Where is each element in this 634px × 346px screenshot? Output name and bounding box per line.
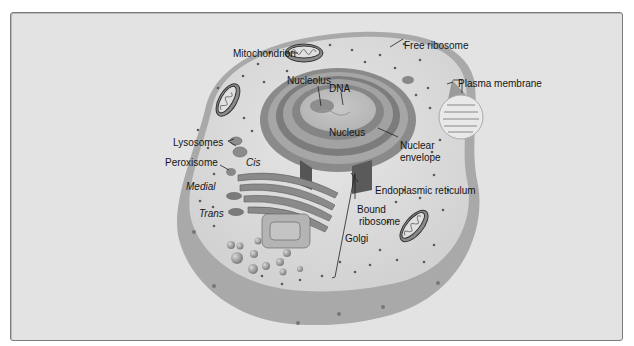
label-free-ribosome: Free ribosome xyxy=(404,40,468,51)
label-medial: Medial xyxy=(186,181,215,192)
label-peroxisome: Peroxisome xyxy=(165,157,218,168)
label-lysosomes: Lysosomes xyxy=(173,137,223,148)
label-bound-ribosome-1: Bound xyxy=(357,204,386,215)
label-dna: DNA xyxy=(329,83,350,94)
label-mitochondrion: Mitochondrion xyxy=(233,48,296,59)
label-cis: Cis xyxy=(246,157,260,168)
label-nuclear-envelope-1: Nuclear xyxy=(400,140,434,151)
label-golgi: Golgi xyxy=(345,233,368,244)
label-nucleus: Nucleus xyxy=(329,127,365,138)
label-bound-ribosome-2: ribosome xyxy=(359,216,400,227)
label-trans: Trans xyxy=(199,208,224,219)
label-nuclear-envelope-2: envelope xyxy=(400,152,441,163)
label-nucleolus: Nucleolus xyxy=(287,75,331,86)
label-endoplasmic-reticulum: Endoplasmic reticulum xyxy=(375,185,476,196)
cell-diagram xyxy=(0,0,634,346)
label-plasma-membrane: Plasma membrane xyxy=(458,78,542,89)
